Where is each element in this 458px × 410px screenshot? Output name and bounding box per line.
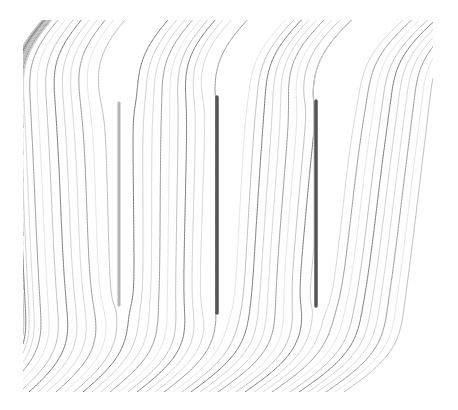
streamline — [65, 14, 118, 392]
streamline — [326, 40, 438, 392]
streamline — [56, 15, 110, 392]
plates — [119, 97, 316, 313]
streamlines — [13, 14, 439, 392]
streamline-plot — [0, 0, 458, 410]
streamline — [13, 15, 46, 308]
streamline — [14, 15, 47, 335]
streamline — [119, 15, 205, 392]
streamline — [110, 15, 197, 392]
streamline — [23, 14, 78, 389]
streamline — [101, 15, 190, 393]
streamline — [173, 15, 290, 392]
streamline-figure — [0, 0, 458, 410]
streamline — [317, 32, 438, 392]
streamline — [128, 14, 213, 392]
streamline — [263, 14, 410, 392]
streamline — [245, 15, 357, 392]
streamline — [74, 14, 130, 392]
streamline — [17, 15, 50, 236]
streamline — [17, 15, 50, 227]
